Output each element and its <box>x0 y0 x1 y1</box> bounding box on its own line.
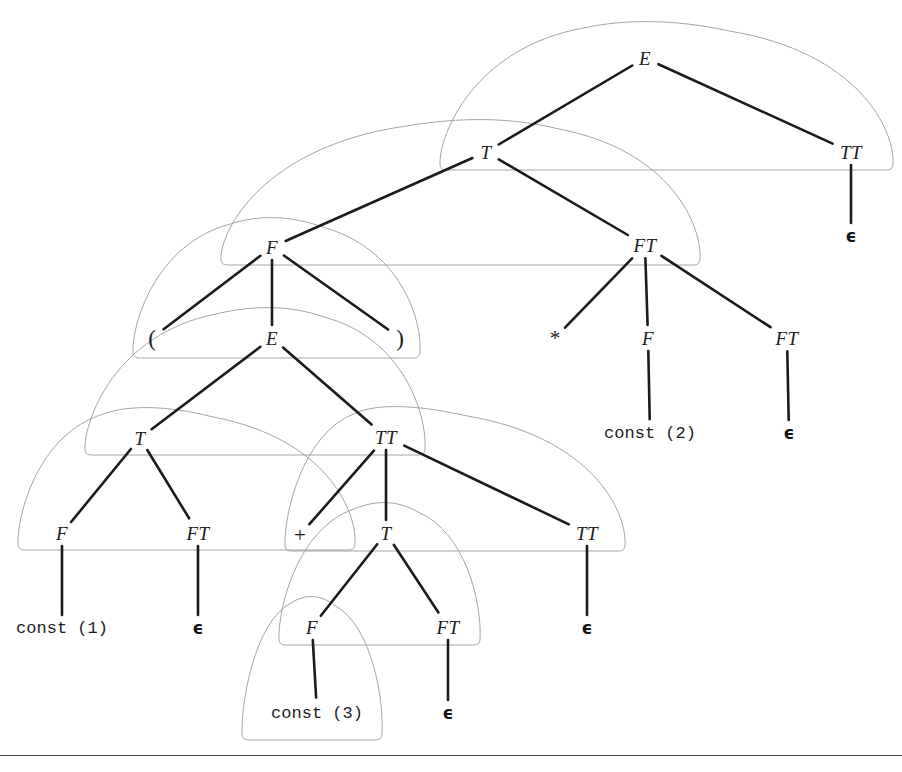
tree-edge-E1-T1 <box>152 347 261 429</box>
tree-edge-FT1-eps1 <box>787 351 788 420</box>
tree-node-FT0: FT <box>633 236 656 255</box>
tree-node-E0: E <box>639 49 651 68</box>
tree-edge-FT0-FT1 <box>662 256 771 327</box>
tree-node-F3: F <box>306 618 318 637</box>
outline-TT1 <box>285 407 625 551</box>
tree-node-F1: F <box>642 329 654 348</box>
tree-node-T0: T <box>480 143 491 162</box>
tree-edge-group <box>62 64 851 700</box>
tree-edge-F3-const3 <box>313 640 316 697</box>
tree-node-const1: const (1) <box>16 620 108 637</box>
tree-node-T1: T <box>134 429 145 448</box>
tree-edge-E0-T0 <box>499 66 633 145</box>
tree-node-FT1: FT <box>775 329 798 348</box>
tree-node-FT3: FT <box>436 618 459 637</box>
tree-node-FT2: FT <box>186 524 209 543</box>
tree-edge-F1-const2 <box>648 351 649 419</box>
tree-edge-FT0-star <box>565 258 632 327</box>
tree-edge-FT0-F1 <box>645 258 647 325</box>
tree-node-TT2: TT <box>576 524 598 543</box>
tree-edge-T2-FT3 <box>394 545 439 613</box>
tree-node-lparen: ( <box>148 327 156 350</box>
tree-node-const3: const (3) <box>271 705 363 722</box>
tree-node-F0: F <box>266 238 278 257</box>
outline-E0 <box>440 22 893 170</box>
tree-node-E1: E <box>266 329 278 348</box>
tree-node-eps2: ϵ <box>193 620 204 637</box>
tree-node-eps0: ϵ <box>846 228 857 245</box>
tree-node-rparen: ) <box>396 327 404 350</box>
tree-edge-T1-F2 <box>71 449 131 522</box>
tree-edge-T0-FT0 <box>499 159 628 235</box>
tree-node-TT1: TT <box>375 428 397 447</box>
tree-node-eps3: ϵ <box>582 620 593 637</box>
tree-edge-E0-TT0 <box>659 64 833 143</box>
tree-edge-F0-rparen <box>284 256 388 330</box>
tree-edge-F0-lparen <box>164 256 261 329</box>
tree-node-eps1: ϵ <box>784 425 795 442</box>
outline-T0 <box>221 120 700 265</box>
tree-edge-T1-FT2 <box>147 450 189 518</box>
tree-node-TT0: TT <box>840 143 862 162</box>
tree-edge-T2-F3 <box>321 544 377 616</box>
tree-node-const2: const (2) <box>604 425 696 442</box>
tree-node-F2: F <box>56 524 68 543</box>
tree-edge-TT1-TT2 <box>404 446 569 525</box>
tree-node-plus: + <box>294 525 306 546</box>
page-bottom-rule <box>0 755 902 756</box>
tree-node-star: * <box>550 328 561 349</box>
tree-node-T2: T <box>380 524 391 543</box>
tree-canvas <box>0 0 902 772</box>
tree-edge-TT1-plus <box>309 451 374 525</box>
tree-edge-T0-F0 <box>286 158 473 241</box>
tree-node-eps4: ϵ <box>443 705 454 722</box>
tree-edge-E1-TT1 <box>283 348 372 425</box>
parse-tree-figure: ETTTϵFFT(E)*FFTconst (2)ϵTTTFFT+TTTconst… <box>0 0 902 772</box>
